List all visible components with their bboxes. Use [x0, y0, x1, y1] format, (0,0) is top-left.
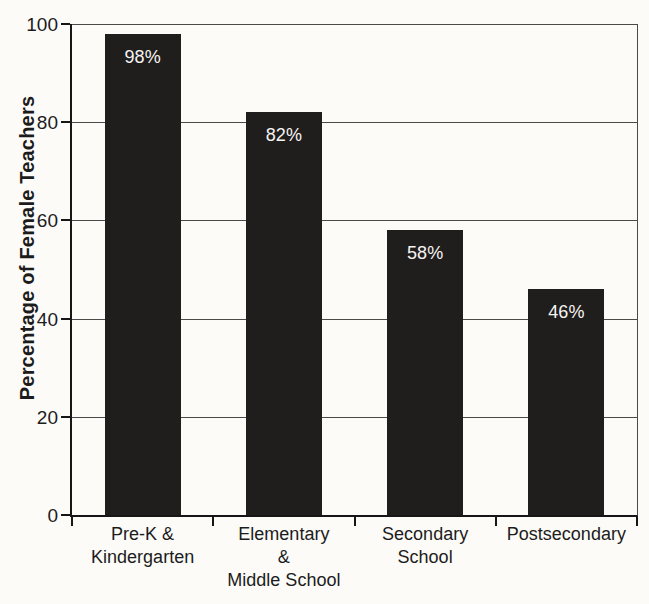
- x-axis-tick-2: [354, 517, 356, 526]
- y-tick-label-40: 40: [8, 309, 58, 328]
- bar-chart-figure: Percentage of Female Teachers 0204060801…: [0, 0, 649, 604]
- bar-value-label-3: 46%: [528, 302, 604, 323]
- y-axis-tick-100: [61, 23, 70, 25]
- x-axis-tick-1: [212, 517, 214, 526]
- bar-2: 58%: [387, 230, 463, 515]
- y-axis-title: Percentage of Female Teachers: [16, 96, 39, 400]
- y-tick-label-20: 20: [8, 407, 58, 426]
- category-label-0: Pre-K & Kindergarten: [72, 523, 213, 569]
- category-label-3: Postsecondary: [496, 523, 637, 546]
- bar-value-label-1: 82%: [246, 125, 322, 146]
- category-label-2: Secondary School: [355, 523, 496, 569]
- x-axis-tick-4: [636, 517, 638, 526]
- bar-0: 98%: [105, 34, 181, 515]
- bar-1: 82%: [246, 112, 322, 515]
- y-axis-tick-20: [61, 416, 70, 418]
- bar-3: 46%: [528, 289, 604, 515]
- x-axis-tick-0: [71, 517, 73, 526]
- y-tick-label-60: 60: [8, 211, 58, 230]
- y-axis-tick-80: [61, 121, 70, 123]
- bar-value-label-2: 58%: [387, 243, 463, 264]
- y-tick-label-100: 100: [8, 15, 58, 34]
- y-tick-label-80: 80: [8, 113, 58, 132]
- y-tick-label-0: 0: [8, 506, 58, 525]
- bar-value-label-0: 98%: [105, 47, 181, 68]
- y-axis-tick-0: [61, 514, 70, 516]
- gridline-100: [72, 24, 637, 25]
- category-label-1: Elementary & Middle School: [213, 523, 354, 592]
- x-axis-tick-3: [495, 517, 497, 526]
- y-axis-tick-40: [61, 318, 70, 320]
- plot-area: 02040608010098%Pre-K & Kindergarten82%El…: [70, 24, 638, 517]
- y-axis-tick-60: [61, 219, 70, 221]
